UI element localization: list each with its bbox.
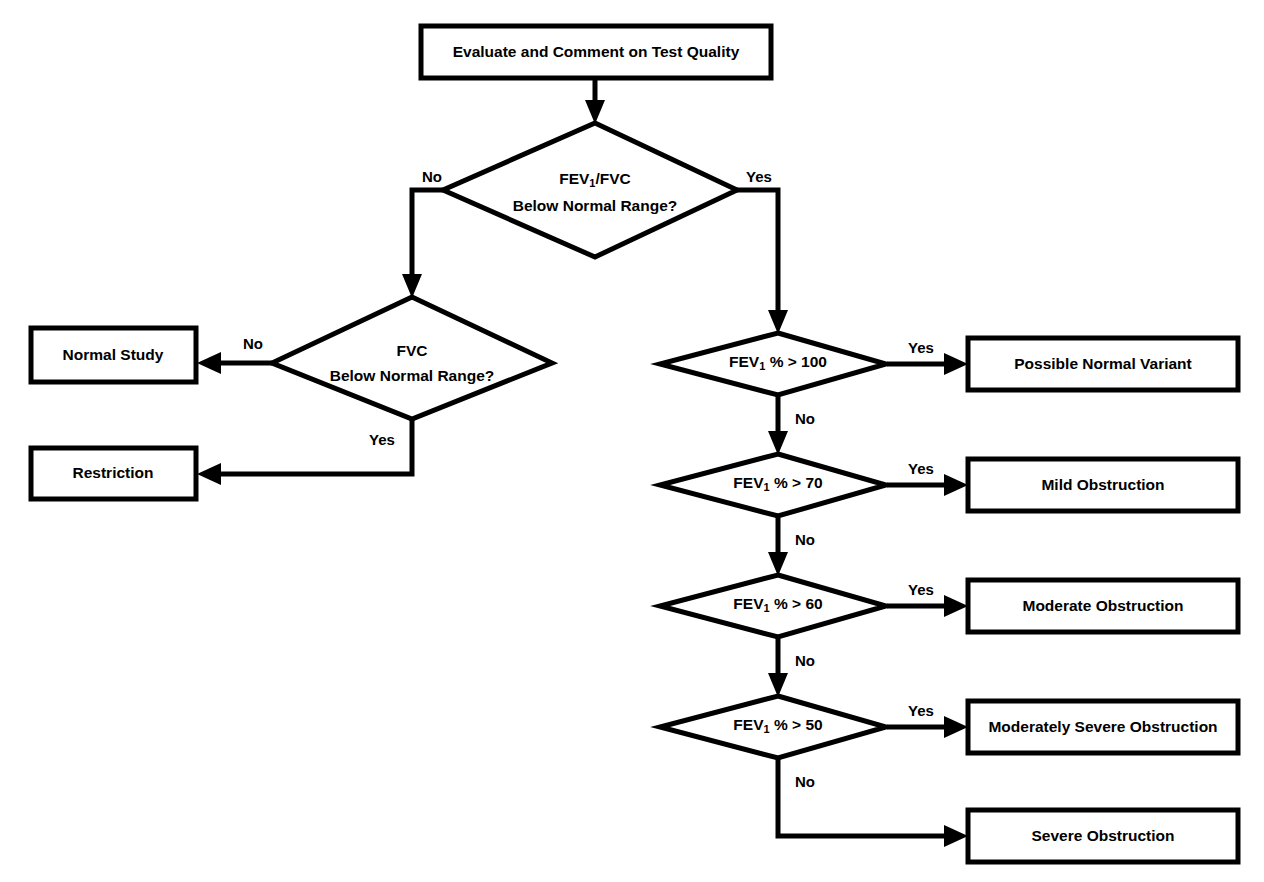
edge-label-fev1fvc-yes: Yes [746, 168, 772, 185]
node-outcome-severe-obstruction-label: Severe Obstruction [1032, 827, 1175, 844]
edge-label-d70-yes: Yes [908, 460, 934, 477]
node-decision-fev1-pct-100[interactable]: FEV1 % > 100 [660, 333, 886, 395]
connector-fev1-60-no [768, 637, 788, 697]
node-outcome-moderate-obstruction[interactable]: Moderate Obstruction [968, 580, 1238, 632]
edge-label-d60-no: No [795, 652, 815, 669]
node-decision-fev1-pct-70-label: FEV1 % > 70 [733, 474, 822, 493]
connector-fvc-no-to-normal-study [197, 352, 272, 374]
edge-label-d70-no: No [795, 531, 815, 548]
edge-label-d50-yes: Yes [908, 702, 934, 719]
connector-fev1-70-yes [887, 474, 968, 496]
connector-start-to-fev1fvc [585, 79, 605, 124]
connector-fev1-100-yes [887, 353, 968, 375]
connector-fev1-70-no [768, 516, 788, 576]
node-outcome-normal-study-label: Normal Study [63, 346, 164, 363]
connector-fev1-50-no [778, 758, 968, 847]
edge-label-d50-no: No [795, 773, 815, 790]
node-start-label: Evaluate and Comment on Test Quality [453, 43, 740, 60]
node-outcome-possible-normal-variant[interactable]: Possible Normal Variant [968, 338, 1238, 390]
node-outcome-normal-study[interactable]: Normal Study [31, 328, 196, 382]
edge-label-fvc-yes: Yes [369, 431, 395, 448]
node-decision-fev1-fvc-line2: Below Normal Range? [513, 197, 678, 214]
connector-fev1-50-yes [887, 716, 968, 738]
node-outcome-restriction-label: Restriction [73, 464, 154, 481]
connector-fev1-60-yes [887, 595, 968, 617]
node-decision-fev1-pct-60-label: FEV1 % > 60 [733, 595, 822, 614]
node-decision-fev1-pct-50-label: FEV1 % > 50 [733, 716, 822, 735]
connector-fev1fvc-no-to-fvc [402, 190, 443, 298]
edge-label-d100-yes: Yes [908, 339, 934, 356]
edge-label-fvc-no: No [243, 335, 263, 352]
node-outcome-moderately-severe-obstruction-label: Moderately Severe Obstruction [988, 718, 1217, 735]
connector-fev1-100-no [768, 395, 788, 455]
node-decision-fvc-line1: FVC [397, 342, 428, 359]
node-outcome-restriction[interactable]: Restriction [31, 448, 196, 499]
node-decision-fvc-line2: Below Normal Range? [330, 367, 495, 384]
node-outcome-possible-normal-variant-label: Possible Normal Variant [1014, 355, 1191, 372]
edge-label-d100-no: No [795, 410, 815, 427]
node-decision-fev1-pct-70[interactable]: FEV1 % > 70 [660, 454, 886, 516]
node-outcome-severe-obstruction[interactable]: Severe Obstruction [968, 810, 1238, 862]
node-decision-fev1-fvc-ratio[interactable]: FEV1/FVC Below Normal Range? [443, 123, 737, 257]
node-decision-fev1-pct-100-label: FEV1 % > 100 [729, 353, 827, 372]
node-decision-fvc[interactable]: FVC Below Normal Range? [272, 297, 552, 419]
node-outcome-moderately-severe-obstruction[interactable]: Moderately Severe Obstruction [968, 701, 1238, 753]
node-outcome-mild-obstruction[interactable]: Mild Obstruction [968, 459, 1238, 511]
connector-fev1fvc-yes-to-fev1-100 [735, 190, 788, 334]
connector-fvc-yes-to-restriction [197, 420, 412, 485]
node-decision-fev1-pct-60[interactable]: FEV1 % > 60 [660, 575, 886, 637]
edge-label-d60-yes: Yes [908, 581, 934, 598]
flowchart-canvas: Evaluate and Comment on Test Quality FEV… [0, 0, 1264, 882]
node-outcome-mild-obstruction-label: Mild Obstruction [1041, 476, 1164, 493]
node-outcome-moderate-obstruction-label: Moderate Obstruction [1022, 597, 1183, 614]
node-decision-fev1-pct-50[interactable]: FEV1 % > 50 [660, 696, 886, 758]
edge-label-fev1fvc-no: No [422, 168, 442, 185]
node-start[interactable]: Evaluate and Comment on Test Quality [421, 26, 771, 78]
node-decision-fev1-fvc-line1: FEV1/FVC [559, 170, 631, 189]
